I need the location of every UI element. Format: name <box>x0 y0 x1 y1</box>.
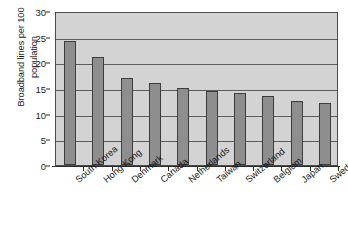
x-category-label: Canada <box>158 173 169 185</box>
y-tick-label: 25 <box>22 32 46 43</box>
y-tickmark <box>46 63 50 64</box>
bar <box>319 103 331 165</box>
y-axis-tick-labels: 302520151050 <box>22 12 46 166</box>
bar-series <box>56 13 337 165</box>
x-category-label: Netherlands <box>186 173 197 185</box>
x-category-label: Belgium <box>271 173 282 185</box>
y-tick-label: 10 <box>22 109 46 120</box>
y-tickmark <box>46 166 50 167</box>
y-tickmark <box>46 12 50 13</box>
y-tickmark <box>46 37 50 38</box>
y-tick-label: 5 <box>22 135 46 146</box>
broadband-bar-chart: Broadband lines per 100 population 30252… <box>0 0 348 238</box>
x-axis-category-labels: South KoreaHong KongDenmarkCanadaNetherl… <box>0 171 348 238</box>
x-category-label: Sweden <box>328 173 339 185</box>
x-category-label: Taiwan <box>215 173 226 185</box>
x-category-label: South Korea <box>73 173 84 185</box>
bar <box>177 88 189 165</box>
bar <box>64 41 76 165</box>
x-category-label: Denmark <box>130 173 141 185</box>
x-category-label: Switzerland <box>243 173 254 185</box>
y-tick-label: 0 <box>22 161 46 172</box>
y-tick-label: 20 <box>22 58 46 69</box>
x-category-label: Japan <box>300 173 311 185</box>
y-tickmark <box>46 89 50 90</box>
bar <box>234 93 246 165</box>
bar <box>92 57 104 165</box>
y-tickmark <box>46 140 50 141</box>
y-tick-label: 30 <box>22 7 46 18</box>
plot-area <box>55 12 338 166</box>
y-tick-label: 15 <box>22 84 46 95</box>
x-category-label: Hong Kong <box>102 173 113 185</box>
y-tickmark <box>46 114 50 115</box>
